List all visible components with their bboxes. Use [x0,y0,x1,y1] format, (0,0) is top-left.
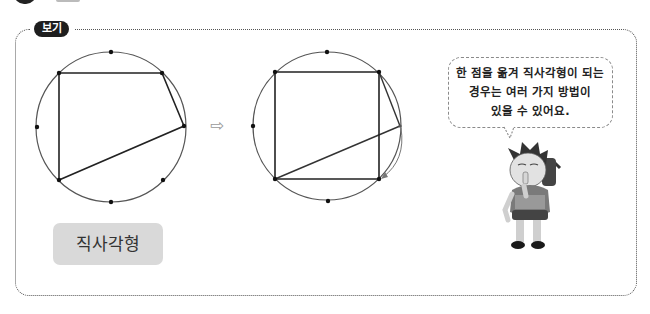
rectangle-after [275,72,379,179]
figure-after [251,50,402,203]
speech-line-1: 한 점을 옮겨 직사각형이 되는 [449,64,612,83]
figures [0,0,650,314]
ghost-edge-2 [275,126,400,179]
figure-before [35,50,186,204]
character-illustration [505,142,560,249]
ghost-edge-1 [379,72,400,126]
speech-bubble: 한 점을 옮겨 직사각형이 되는 경우는 여러 가지 방법이 있을 수 있어요. [448,57,613,128]
speech-line-2: 경우는 여러 가지 방법이 [449,83,612,102]
speech-bubble-tail [500,126,520,140]
transform-arrow-icon: ⇨ [210,116,224,134]
quadrilateral-before [59,73,184,180]
speech-line-3: 있을 수 있어요. [449,102,612,121]
move-arrow-icon [383,128,402,177]
answer-box: 직사각형 [53,223,163,265]
